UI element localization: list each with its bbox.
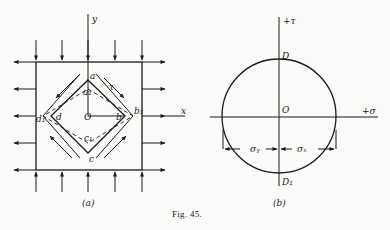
- point-D-label: D: [281, 51, 289, 61]
- point-b-label: b: [116, 112, 122, 122]
- point-D1-label: D₁: [281, 177, 293, 187]
- tau-axis-label: +τ: [283, 16, 297, 26]
- shear-tau-label: τ: [109, 82, 115, 92]
- panel-a: y x a a₁ τ b b₁ O d d₁ c₁ c (a): [14, 14, 186, 208]
- sigma-y-label: σᵧ: [250, 144, 260, 154]
- x-axis-label: x: [181, 106, 186, 116]
- sigma-axis-label: +σ: [362, 106, 377, 116]
- figure-caption: Fig. 45.: [172, 209, 202, 219]
- point-b1-label: b₁: [134, 106, 143, 116]
- bottom-load-arrows: [36, 172, 142, 192]
- panel-b: +τ +σ D O D₁ σᵧ σₓ (b): [210, 16, 378, 208]
- point-a-label: a: [90, 71, 95, 81]
- figure-45: y x a a₁ τ b b₁ O d d₁ c₁ c (a) +τ +σ D …: [0, 0, 390, 230]
- panel-b-label: (b): [273, 198, 286, 208]
- origin-O-label: O: [282, 105, 290, 115]
- right-load-arrows: [142, 62, 165, 170]
- point-a1-label: a₁: [83, 87, 92, 97]
- y-axis-label: y: [91, 14, 98, 24]
- point-c1-label: c₁: [84, 133, 93, 143]
- panel-a-label: (a): [82, 198, 95, 208]
- point-d-label: d: [56, 112, 62, 122]
- point-d1-label: d₁: [36, 114, 45, 124]
- origin-o-label: O: [84, 112, 92, 122]
- sigma-x-label: σₓ: [297, 144, 307, 154]
- top-load-arrows: [36, 40, 142, 60]
- point-c-label: c: [89, 154, 94, 164]
- left-load-arrows: [14, 62, 36, 170]
